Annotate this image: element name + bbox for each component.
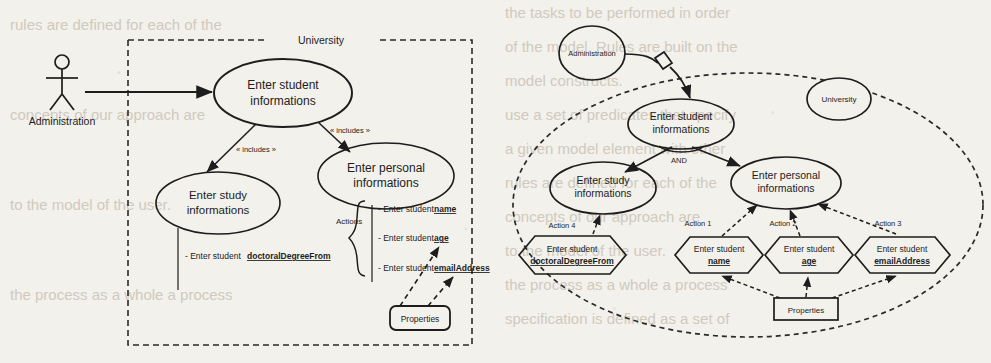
- university-oval-label: University: [821, 95, 856, 104]
- stereotype-includes-personal: « includes »: [330, 126, 370, 135]
- dependency-link-segment-2: [670, 67, 690, 98]
- and-branch-to-study: [625, 147, 672, 172]
- properties-link-to-email: [832, 276, 896, 298]
- use-case-label-line2: informations: [353, 176, 418, 190]
- task-label-attribute: name: [708, 256, 730, 266]
- task-label-line1: Enter student: [784, 244, 835, 254]
- dependency-properties-to-age: [400, 247, 439, 306]
- task-enter-student-age[interactable]: Enter student age: [765, 237, 853, 273]
- goal-label-line1: Enter study: [576, 174, 630, 186]
- means-end-name-to-personal: [722, 205, 757, 236]
- goal-label-line2: informations: [574, 187, 631, 199]
- left-use-case-diagram: University Administration Enter student …: [29, 34, 490, 345]
- task-label-attribute: age: [802, 256, 817, 266]
- stereotype-includes-study: « includes »: [236, 145, 276, 154]
- actor-administration[interactable]: [46, 55, 78, 110]
- properties-link-to-age: [806, 277, 808, 297]
- use-case-enter-student-informations[interactable]: Enter student informations: [214, 59, 352, 127]
- use-case-enter-study-informations[interactable]: Enter study informations: [156, 172, 280, 234]
- actions-bracket-label: Actions: [336, 217, 362, 226]
- use-case-ellipse: [214, 59, 352, 127]
- figure-root: the tasks to be performed in order of th…: [0, 0, 991, 363]
- action-note-email: - Enter student emailAddress: [378, 263, 490, 273]
- use-case-label-line1: Enter study: [189, 189, 247, 201]
- goal-enter-student-informations[interactable]: Enter student informations: [628, 99, 734, 149]
- actor-leg-right-icon: [62, 94, 74, 110]
- task-hexagon: [519, 236, 626, 274]
- properties-box-left[interactable]: Properties: [390, 306, 450, 330]
- goal-enter-study-informations[interactable]: Enter study informations: [550, 162, 656, 214]
- label-action-3: Action 3: [874, 219, 901, 228]
- task-enter-student-email-address[interactable]: Enter student emailAddress: [855, 237, 950, 273]
- task-label-line1: Enter student: [694, 244, 745, 254]
- action-note-prefix: - Enter student: [378, 204, 434, 214]
- right-goal-diagram: University Administration Enter student …: [513, 26, 983, 337]
- task-enter-student-name[interactable]: Enter student name: [675, 237, 763, 273]
- goal-boundary-ellipse: [513, 73, 983, 337]
- actor-head-icon: [55, 55, 69, 69]
- boundary-marker-university[interactable]: University: [807, 78, 871, 120]
- action-note-attribute: name: [434, 204, 456, 214]
- dependency-properties-to-email: [428, 277, 453, 306]
- label-action-4: Action 4: [548, 221, 575, 230]
- task-label-attribute: emailAddress: [874, 256, 930, 266]
- goal-label-line2: informations: [652, 123, 709, 135]
- use-case-label-line1: Enter student: [247, 78, 319, 92]
- task-label-attribute: doctoralDegreeFrom: [530, 256, 614, 266]
- actions-brace: [349, 201, 365, 276]
- properties-box-right[interactable]: Properties: [774, 298, 838, 320]
- actor-leg-left-icon: [50, 94, 62, 110]
- properties-box-label: Properties: [401, 314, 440, 324]
- means-end-doctoral-to-study: [593, 215, 600, 234]
- action-note-name: - Enter student name: [378, 204, 456, 214]
- goal-label-line2: informations: [757, 182, 814, 194]
- boundary-label-university: University: [298, 34, 345, 46]
- administration-oval-label: Administration: [568, 49, 616, 58]
- dependency-notch-icon: [655, 52, 672, 69]
- note-study-doctoral-degree: - Enter student doctoralDegreeFrom: [185, 251, 331, 261]
- goal-label-line1: Enter personal: [752, 169, 820, 181]
- dependency-link-segment-1: [625, 54, 658, 63]
- task-label-line1: Enter student: [547, 244, 598, 254]
- action-note-attribute: age: [434, 233, 449, 243]
- note-prefix: - Enter student: [185, 251, 241, 261]
- and-operator-label: AND: [671, 156, 687, 165]
- diagram-canvas: University Administration Enter student …: [0, 0, 991, 363]
- and-branch-to-personal: [692, 147, 740, 166]
- goal-label-line1: Enter student: [650, 110, 713, 122]
- actor-label-administration: Administration: [29, 115, 96, 127]
- action-note-attribute: emailAddress: [434, 263, 490, 273]
- task-hexagon: [675, 237, 763, 273]
- action-note-age: - Enter student age: [378, 233, 449, 243]
- use-case-label-line1: Enter personal: [347, 161, 425, 175]
- properties-link-to-name: [722, 276, 780, 298]
- properties-box-label: Properties: [788, 306, 824, 315]
- use-case-label-line2: informations: [187, 204, 250, 216]
- action-note-prefix: - Enter student: [378, 233, 434, 243]
- use-case-ellipse: [156, 172, 280, 234]
- task-enter-student-doctoral-degree[interactable]: Enter student doctoralDegreeFrom: [519, 236, 626, 274]
- label-action-1: Action 1: [684, 219, 711, 228]
- use-case-label-line2: informations: [250, 94, 315, 108]
- label-action-2: Action 2: [769, 219, 796, 228]
- task-hexagon: [855, 237, 950, 273]
- actor-node-administration[interactable]: Administration: [559, 26, 625, 80]
- note-attribute: doctoralDegreeFrom: [247, 251, 331, 261]
- task-label-line1: Enter student: [877, 244, 928, 254]
- use-case-enter-personal-informations[interactable]: Enter personal informations: [318, 143, 454, 209]
- goal-enter-personal-informations[interactable]: Enter personal informations: [731, 157, 841, 209]
- task-hexagon: [765, 237, 853, 273]
